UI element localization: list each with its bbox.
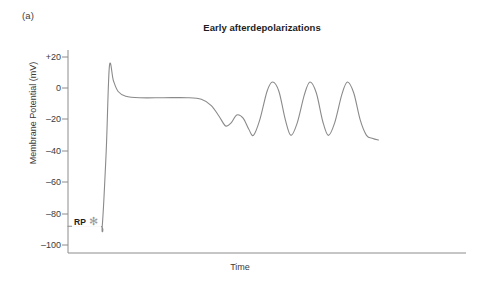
y-tick-label: 0	[27, 83, 61, 93]
axis-lines	[68, 50, 466, 253]
y-tick-label: –40	[27, 146, 61, 156]
y-tick-label: –60	[27, 177, 61, 187]
resting-potential-annotation: RP ✻	[72, 216, 101, 228]
x-axis-label: Time	[180, 262, 300, 272]
chart-title: Early afterdepolarizations	[0, 22, 478, 33]
rp-label: RP	[74, 217, 86, 227]
y-tick-label: –100	[27, 240, 61, 250]
y-axis-tick-labels: +20 0 –20 –40 –60 –80 –100	[27, 0, 61, 293]
y-tick-label: +20	[27, 52, 61, 62]
star-icon: ✻	[89, 216, 98, 227]
y-tick-label: –20	[27, 114, 61, 124]
membrane-potential-trace	[68, 63, 378, 232]
y-tick-label: –80	[27, 209, 61, 219]
plot-canvas	[0, 0, 478, 293]
figure-panel: (a) Early afterdepolarizations Membrane …	[0, 0, 478, 293]
y-axis-ticks	[62, 57, 68, 245]
